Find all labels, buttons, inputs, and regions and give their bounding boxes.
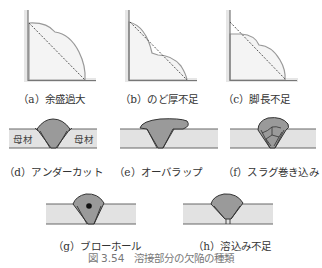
panel-d-diagram: 母材 母材: [9, 119, 97, 148]
panel-h-diagram: [183, 194, 273, 224]
panel-g-diagram: [46, 194, 136, 224]
base-metal-label-left: 母材: [13, 134, 33, 145]
panel-d-label: （d）アンダーカット: [4, 164, 103, 179]
panel-b-label: （b）のど厚不足: [120, 91, 198, 106]
panel-e-label: （e）オーバラップ: [114, 164, 202, 179]
figure-caption: 図 3.54 溶接部分の欠陥の種類: [0, 250, 322, 265]
weld-defects-figure: 母材 母材: [0, 0, 322, 268]
panel-b-diagram: [125, 10, 197, 82]
base-metal-label-right: 母材: [74, 134, 94, 145]
panel-e-diagram: [120, 119, 218, 148]
panel-f-label: （f）スラグ巻き込み: [223, 164, 319, 179]
panel-c-label: （c）脚長不足: [223, 91, 290, 106]
panel-f-diagram: [230, 118, 316, 148]
panel-c-diagram: [226, 10, 298, 82]
panel-a-diagram: [24, 10, 96, 82]
blowhole-dot: [86, 203, 92, 209]
panel-a-label: （a）余盛過大: [18, 91, 86, 106]
